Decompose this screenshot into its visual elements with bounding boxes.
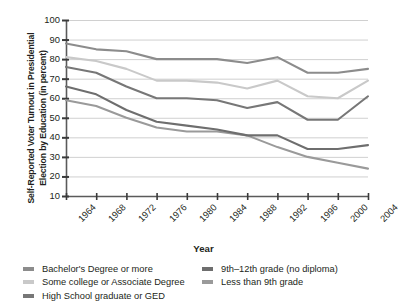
- legend-item[interactable]: Bachelor's Degree or more: [23, 262, 218, 276]
- legend-color-swatch: [202, 267, 213, 271]
- legend-item-label: Some college or Associate Degree: [42, 277, 185, 287]
- x-axis-tick-label: 1964: [77, 203, 98, 224]
- y-axis-tick-label: 20: [34, 171, 60, 180]
- legend-item[interactable]: Some college or Associate Degree: [23, 276, 218, 290]
- legend-color-swatch: [23, 267, 34, 271]
- chart-legend: Bachelor's Degree or moreSome college or…: [0, 262, 385, 307]
- legend-color-swatch: [202, 280, 213, 284]
- y-axis-tick-label: 50: [34, 113, 60, 122]
- series-line: [66, 57, 368, 98]
- y-axis-tick-label: 40: [34, 132, 60, 141]
- series-line: [66, 100, 368, 168]
- legend-column-left: Bachelor's Degree or moreSome college or…: [23, 262, 218, 303]
- legend-item[interactable]: High School graduate or GED: [23, 289, 218, 303]
- y-axis-tick-label: 30: [34, 152, 60, 161]
- x-axis-tick-label: 2004: [379, 203, 400, 224]
- x-axis-tick-label: 1968: [107, 203, 128, 224]
- y-axis-tick-label: 80: [34, 54, 60, 63]
- legend-item-label: 9th–12th grade (no diploma): [221, 264, 338, 274]
- legend-item-label: Bachelor's Degree or more: [42, 264, 153, 274]
- y-axis-tick-label: 70: [34, 74, 60, 83]
- legend-item-label: Less than 9th grade: [221, 277, 303, 287]
- x-axis-tick-label: 2000: [349, 203, 370, 224]
- y-axis-tick-label: 10: [34, 191, 60, 200]
- legend-column-right: 9th–12th grade (no diploma)Less than 9th…: [202, 262, 382, 289]
- plot-area: [66, 20, 368, 196]
- y-axis-tick-labels: 100908070605040302010: [30, 0, 60, 220]
- legend-color-swatch: [23, 280, 34, 284]
- x-axis-tick-label: 1972: [137, 203, 158, 224]
- legend-color-swatch: [23, 294, 34, 298]
- y-axis-tick-label: 90: [34, 35, 60, 44]
- legend-item[interactable]: Less than 9th grade: [202, 276, 382, 290]
- legend-item[interactable]: 9th–12th grade (no diploma): [202, 262, 382, 276]
- x-axis-tick-label: 1996: [319, 203, 340, 224]
- x-axis-tick-label: 1976: [168, 203, 189, 224]
- chart-canvas: [66, 20, 368, 196]
- y-axis-tick-label: 60: [34, 93, 60, 102]
- x-axis-tick-label: 1992: [288, 203, 309, 224]
- x-axis-tick-label: 1988: [258, 203, 279, 224]
- x-axis-title: Year: [0, 243, 385, 254]
- x-axis-tick-label: 1980: [198, 203, 219, 224]
- series-line: [66, 86, 368, 149]
- x-axis-tick-label: 1984: [228, 203, 249, 224]
- series-line: [66, 43, 368, 72]
- legend-item-label: High School graduate or GED: [42, 291, 165, 301]
- y-axis-tick-label: 100: [34, 15, 60, 24]
